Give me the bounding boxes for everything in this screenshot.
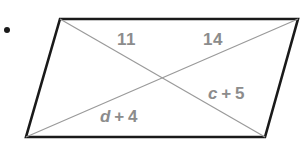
label-segment-lower-left: d+4 [100,108,138,125]
label-segment-lower-left-variable: d [100,107,111,126]
label-segment-upper-left: 11 [117,31,136,48]
label-segment-lower-right-operator: + [221,84,232,103]
label-segment-lower-right-number: 5 [235,84,245,103]
figure-canvas: 11 14 c+5 d+4 [0,0,307,144]
label-segment-lower-right: c+5 [208,85,245,102]
label-segment-lower-left-number: 4 [128,107,138,126]
label-segment-lower-right-variable: c [208,84,218,103]
parallelogram-diagram [0,0,307,144]
label-segment-lower-left-operator: + [114,107,125,126]
label-segment-upper-right: 14 [203,31,223,48]
